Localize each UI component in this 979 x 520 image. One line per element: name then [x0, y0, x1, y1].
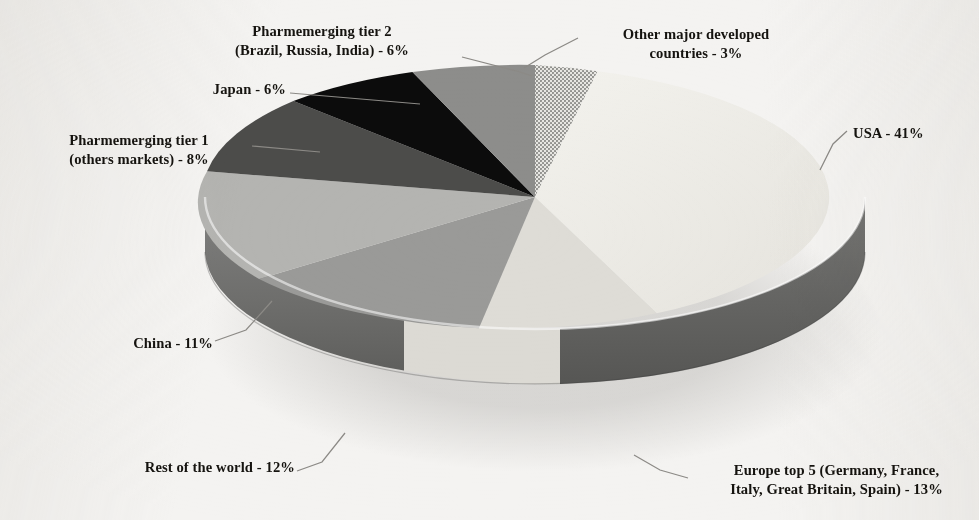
label-pharmemerging-tier-2: Pharmemerging tier 2 (Brazil, Russia, In…	[181, 22, 463, 60]
label-china: China - 11%	[48, 334, 213, 353]
pie-chart-graphic	[0, 0, 979, 520]
label-usa: USA - 41%	[853, 124, 973, 143]
label-other-major-developed-countries: Other major developed countries - 3%	[584, 25, 808, 63]
scan-texture-overlay	[0, 0, 979, 520]
pie-chart-figure: Pharmemerging tier 2 (Brazil, Russia, In…	[0, 0, 979, 520]
label-europe-top-5: Europe top 5 (Germany, France, Italy, Gr…	[694, 461, 979, 499]
label-japan: Japan - 6%	[118, 80, 286, 99]
label-pharmemerging-tier-1: Pharmemerging tier 1 (others markets) - …	[28, 131, 250, 169]
label-rest-of-the-world: Rest of the world - 12%	[110, 458, 295, 477]
